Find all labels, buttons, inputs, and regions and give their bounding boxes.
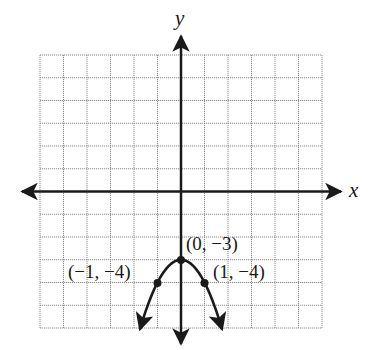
point-left xyxy=(154,279,162,287)
x-axis-label: x xyxy=(348,178,359,202)
point-label-left: (−1, −4) xyxy=(68,261,131,283)
point-label-vertex: (0, −3) xyxy=(186,233,238,255)
coordinate-plane: x y (0, −3) (−1, −4) (1, −4) xyxy=(0,0,371,350)
point-vertex xyxy=(177,256,185,264)
y-axis-label: y xyxy=(173,6,185,30)
point-label-right: (1, −4) xyxy=(213,261,265,283)
point-right xyxy=(201,279,209,287)
